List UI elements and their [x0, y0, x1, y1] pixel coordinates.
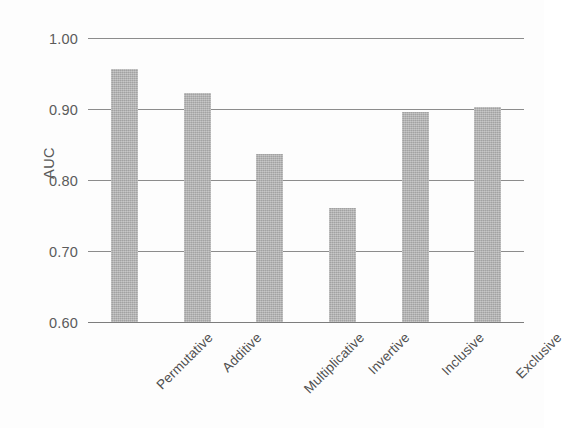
y-tick-label: 1.00	[49, 31, 78, 47]
bar[interactable]	[474, 107, 501, 322]
bar[interactable]	[111, 69, 138, 322]
gridline-0.80: 0.80	[88, 180, 524, 181]
gridline-1.00: 1.00	[88, 38, 524, 39]
x-tick-label: Permutative	[154, 330, 216, 392]
bar[interactable]	[402, 112, 429, 322]
y-tick-label: 0.70	[49, 244, 78, 260]
plot-area: 0.600.700.800.901.00	[88, 38, 524, 322]
bar[interactable]	[329, 208, 356, 322]
bar[interactable]	[256, 154, 283, 322]
x-tick-label: Exclusive	[513, 330, 564, 382]
gridline-0.60: 0.60	[88, 322, 524, 323]
x-tick-label: Multiplicative	[301, 330, 367, 396]
y-tick-label: 0.90	[49, 102, 78, 118]
bar[interactable]	[184, 93, 211, 322]
x-tick-label: Inclusive	[439, 330, 487, 378]
y-tick-label: 0.80	[49, 173, 78, 189]
x-tick-label: Invertive	[366, 330, 413, 377]
x-tick-label: Additive	[219, 330, 264, 375]
y-tick-label: 0.60	[49, 315, 78, 331]
gridline-0.70: 0.70	[88, 251, 524, 252]
gridline-0.90: 0.90	[88, 109, 524, 110]
